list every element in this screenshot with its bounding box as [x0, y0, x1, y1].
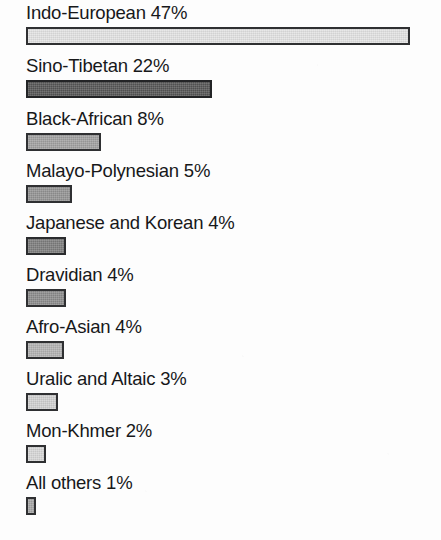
bar — [26, 133, 101, 151]
bar-label: Afro-Asian 4% — [26, 316, 142, 338]
bar — [26, 341, 64, 359]
bar-label: Mon-Khmer 2% — [26, 420, 152, 442]
bar — [26, 27, 410, 45]
bar-fill — [28, 135, 99, 149]
bar-fill — [28, 291, 64, 305]
bar-fill — [28, 239, 64, 253]
bar — [26, 237, 66, 255]
bar-label: Black-African 8% — [26, 108, 164, 130]
bar — [26, 393, 58, 411]
bar-label: All others 1% — [26, 472, 132, 494]
language-families-bar-chart: Indo-European 47%Sino-Tibetan 22%Black-A… — [0, 0, 441, 540]
bar-label: Uralic and Altaic 3% — [26, 368, 187, 390]
bar — [26, 185, 72, 203]
bar-label: Indo-European 47% — [26, 2, 187, 24]
bar-label: Malayo-Polynesian 5% — [26, 160, 210, 182]
bar-label: Japanese and Korean 4% — [26, 212, 235, 234]
bar — [26, 497, 36, 515]
bar-fill — [28, 447, 44, 461]
bar-fill — [28, 29, 408, 43]
bar — [26, 445, 46, 463]
bar-label: Dravidian 4% — [26, 264, 134, 286]
bar — [26, 289, 66, 307]
bar-label: Sino-Tibetan 22% — [26, 55, 169, 77]
bar — [26, 80, 212, 98]
bar-fill — [28, 187, 70, 201]
bar-fill — [28, 343, 62, 357]
bar-fill — [28, 395, 56, 409]
bar-fill — [28, 499, 34, 513]
bar-fill — [28, 82, 210, 96]
